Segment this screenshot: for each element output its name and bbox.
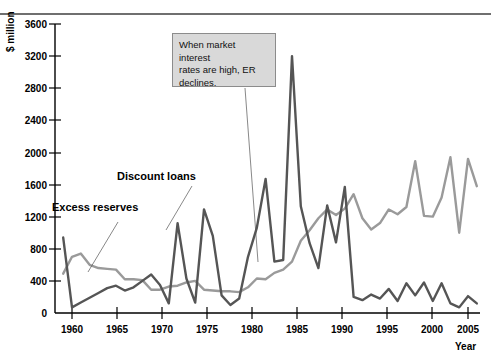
y-tick-label-400: 400 xyxy=(30,276,47,287)
chart-figure: 3600 3200 2800 2400 2000 1600 1200 800 4… xyxy=(0,0,491,354)
annotation-callout-box: When market interest rates are high, ER … xyxy=(172,33,276,87)
y-tick-label-2800: 2800 xyxy=(25,83,48,94)
y-tick-label-3600: 3600 xyxy=(25,19,48,30)
x-tick-label-2000: 2000 xyxy=(421,324,444,335)
x-tick-label-1980: 1980 xyxy=(241,324,264,335)
x-tick-label-1985: 1985 xyxy=(286,324,309,335)
x-tick-label-1990: 1990 xyxy=(331,324,354,335)
y-tick-label-2400: 2400 xyxy=(25,115,48,126)
series-label-excess-reserves: Excess reserves xyxy=(52,201,138,213)
x-axis-title: Year xyxy=(455,341,476,352)
y-axis: 3600 3200 2800 2400 2000 1600 1200 800 4… xyxy=(5,11,61,319)
x-tick-label-1970: 1970 xyxy=(151,324,174,335)
y-tick-label-1600: 1600 xyxy=(25,180,48,191)
y-tick-label-800: 800 xyxy=(30,244,47,255)
annotation-line-1: When market interest xyxy=(179,39,269,64)
y-axis-title: $ million xyxy=(5,11,16,52)
x-tick-label-1975: 1975 xyxy=(196,324,219,335)
x-tick-label-1965: 1965 xyxy=(106,324,129,335)
annotation-line-3: declines. xyxy=(179,77,269,90)
y-tick-label-2000: 2000 xyxy=(25,148,48,159)
annotation-callout-text: When market interest rates are high, ER … xyxy=(173,34,275,89)
series-label-discount-loans: Discount loans xyxy=(117,170,196,182)
x-axis: 1960 1965 1970 1975 1980 1985 1990 1995 … xyxy=(55,307,480,352)
discount-loans-leader-line xyxy=(166,186,192,230)
excess-reserves-leader-line xyxy=(88,222,118,272)
annotation-leader-line xyxy=(245,88,258,262)
annotation-line-2: rates are high, ER xyxy=(179,64,269,77)
y-tick-label-3200: 3200 xyxy=(25,51,48,62)
y-tick-label-0: 0 xyxy=(41,308,47,319)
x-tick-label-1960: 1960 xyxy=(61,324,84,335)
x-tick-label-1995: 1995 xyxy=(376,324,399,335)
x-tick-label-2005: 2005 xyxy=(457,324,480,335)
y-tick-label-1200: 1200 xyxy=(25,212,48,223)
